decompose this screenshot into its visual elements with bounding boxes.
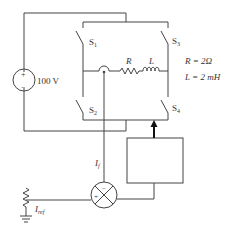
reference-current-label: Iref	[34, 204, 46, 215]
resistance-value: R = 2Ω	[184, 56, 213, 66]
h-bridge-circuit-diagram: + − 100 V S1 S2 S3 S4 R L	[0, 0, 234, 232]
s4-label: S4	[172, 103, 180, 114]
resistor-r	[120, 68, 139, 74]
source-plus-sign: +	[21, 70, 26, 79]
s3-label: S3	[172, 36, 180, 47]
inductor-label: L	[148, 56, 154, 66]
source-loop-wires	[24, 13, 126, 131]
summing-junction: − +	[91, 182, 117, 208]
gate-signal-arrow-icon	[151, 120, 158, 127]
s1-label: S1	[89, 37, 97, 48]
switch-s4	[161, 100, 168, 113]
dc-voltage-source: + − 100 V	[13, 69, 60, 92]
summer-minus-sign: −	[102, 185, 106, 193]
resistor-label: R	[125, 56, 132, 66]
switch-s3	[161, 31, 168, 44]
source-minus-sign: −	[21, 83, 26, 92]
s2-label: S2	[89, 105, 97, 116]
reference-resistor	[23, 188, 29, 207]
source-voltage-label: 100 V	[37, 76, 60, 86]
inductance-value: L = 2 mH	[184, 72, 221, 82]
wire-crossover-hop	[99, 66, 109, 71]
reference-source: Iref	[20, 188, 91, 222]
inductor-l	[143, 67, 159, 71]
summer-plus-sign: +	[94, 193, 98, 201]
feedback-path: If	[94, 71, 105, 182]
load-branch: R L	[83, 56, 168, 74]
feedback-current-label: If	[94, 158, 101, 169]
switch-s1	[76, 31, 83, 44]
switch-s2	[76, 100, 83, 113]
controller-block	[117, 120, 183, 199]
